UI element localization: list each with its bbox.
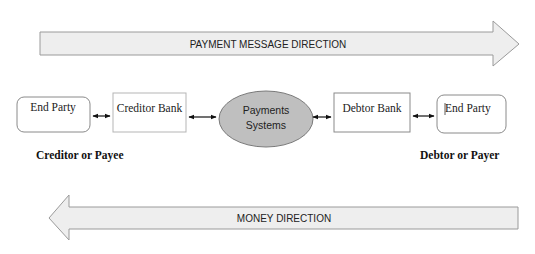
node-end-party-right: End Party (437, 95, 506, 133)
money-direction-arrow: MONEY DIRECTION (49, 195, 518, 240)
end-party-left-label: End Party (30, 101, 76, 114)
payments-systems-label-line2: Systems (246, 119, 286, 131)
node-payments-systems: Payments Systems (219, 91, 313, 147)
payment-message-direction-label: PAYMENT MESSAGE DIRECTION (190, 39, 347, 50)
payment-flow-diagram: PAYMENT MESSAGE DIRECTION End Party Cred… (0, 0, 535, 254)
money-direction-label: MONEY DIRECTION (237, 213, 331, 224)
node-debtor-bank: Debtor Bank (334, 93, 410, 132)
debtor-bank-label: Debtor Bank (342, 102, 401, 114)
creditor-bank-label: Creditor Bank (117, 102, 183, 114)
end-party-right-label: End Party (445, 102, 491, 115)
node-end-party-left: End Party (17, 97, 90, 132)
payment-message-direction-arrow: PAYMENT MESSAGE DIRECTION (40, 21, 519, 66)
payments-systems-label-line1: Payments (243, 104, 290, 116)
node-creditor-bank: Creditor Bank (113, 93, 186, 132)
debtor-role-label: Debtor or Payer (420, 149, 499, 162)
creditor-role-label: Creditor or Payee (36, 149, 124, 162)
